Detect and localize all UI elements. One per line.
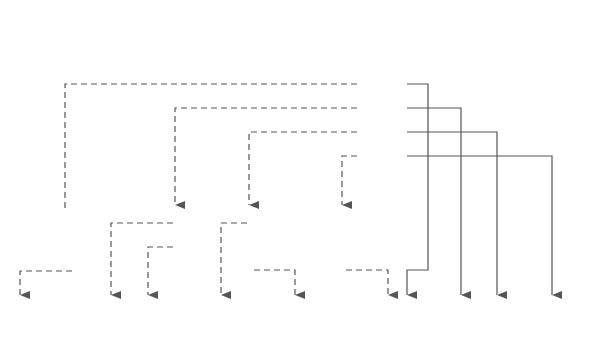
pointer-block-3-to-cell-11: [221, 223, 247, 295]
pointer-block-1-to-cell-0: [20, 271, 72, 295]
pointer-block-2-to-cell-5: [111, 223, 173, 295]
pointer-block-2-to-cell-7: [148, 247, 173, 295]
pointer-21-to-cell-21: [407, 84, 428, 295]
pointer-29-to-cell-29: [407, 156, 552, 295]
pointer-block-3-to-cell-15: [254, 270, 295, 295]
pointer-row-4-to-block-2: [175, 108, 357, 205]
pointer-row-5-to-block-3: [249, 132, 357, 205]
pointer-block-4-to-cell-20: [346, 270, 388, 295]
diagram-canvas: [0, 0, 590, 350]
pointer-row-6-to-block-4: [342, 156, 357, 205]
solid-pointer-lines: [407, 84, 552, 295]
dashed-pointer-lines: [20, 84, 388, 295]
pointer-24-to-cell-24: [407, 108, 461, 295]
pointer-row-3-to-block-1: [65, 84, 357, 211]
